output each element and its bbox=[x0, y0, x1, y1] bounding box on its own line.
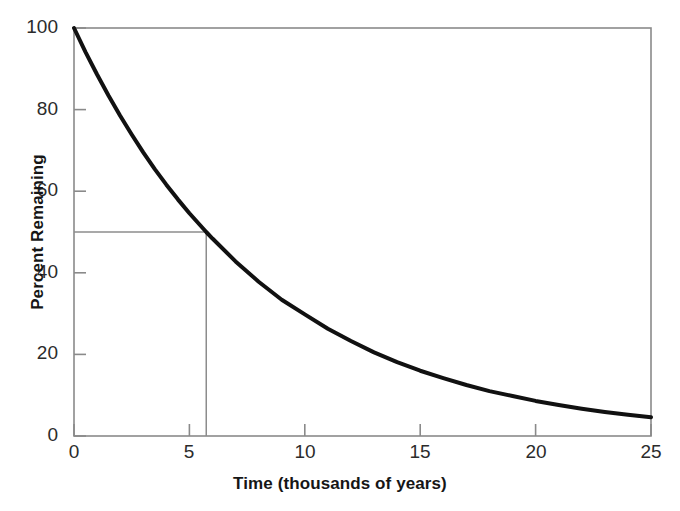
x-tick-label-25: 25 bbox=[621, 441, 680, 463]
x-tick-label-10: 10 bbox=[275, 441, 335, 463]
decay-curve-figure: 100 80 60 40 20 0 0 5 10 15 20 25 Time (… bbox=[0, 0, 680, 511]
x-tick-label-20: 20 bbox=[506, 441, 566, 463]
x-tick-label-0: 0 bbox=[44, 441, 104, 463]
y-axis-title: Percent Remaining bbox=[28, 97, 48, 367]
x-tick-label-5: 5 bbox=[159, 441, 219, 463]
x-axis-title: Time (thousands of years) bbox=[0, 474, 680, 494]
x-tick-label-15: 15 bbox=[390, 441, 450, 463]
x-axis-ticks bbox=[74, 424, 651, 436]
y-tick-label-100: 100 bbox=[2, 16, 58, 38]
decay-curve bbox=[74, 28, 651, 417]
chart-canvas bbox=[0, 0, 680, 511]
